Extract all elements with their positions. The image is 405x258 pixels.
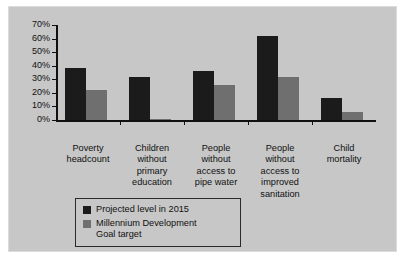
x-axis-line xyxy=(56,120,376,122)
y-tick-mark xyxy=(52,79,57,80)
y-tick-label: 40% xyxy=(32,60,50,71)
y-tick-label: 60% xyxy=(32,33,50,44)
plot-area: 70%60%50%40%30%20%10%0% Poverty headcoun… xyxy=(56,25,376,120)
legend-label-projected: Projected level in 2015 xyxy=(96,204,189,215)
legend-swatch-projected-icon xyxy=(83,206,91,214)
y-tick-label: 10% xyxy=(32,100,50,111)
chart-legend: Projected level in 2015 Millennium Devel… xyxy=(75,198,241,247)
y-tick-mark xyxy=(52,39,57,40)
y-tick-label: 0% xyxy=(37,114,50,125)
bar-group xyxy=(65,25,107,120)
y-tick-label: 50% xyxy=(32,46,50,57)
bar-group xyxy=(129,25,171,120)
bar-projected xyxy=(321,98,342,120)
x-tick-mark xyxy=(120,121,121,125)
y-tick-label: 20% xyxy=(32,87,50,98)
bar-target xyxy=(342,112,363,120)
y-tick-mark xyxy=(52,120,57,121)
legend-swatch-target-icon xyxy=(83,220,91,228)
y-tick-mark xyxy=(52,52,57,53)
legend-item-target: Millennium Development Goal target xyxy=(83,218,234,240)
bar-projected xyxy=(65,68,86,120)
y-tick-mark xyxy=(52,93,57,94)
y-tick-mark xyxy=(52,66,57,67)
y-tick-mark xyxy=(52,25,57,26)
bar-projected xyxy=(193,71,214,120)
legend-item-projected: Projected level in 2015 xyxy=(83,204,234,215)
chart-figure: 70%60%50%40%30%20%10%0% Poverty headcoun… xyxy=(0,0,405,258)
chart-plate: 70%60%50%40%30%20%10%0% Poverty headcoun… xyxy=(8,6,397,252)
bar-target xyxy=(86,90,107,120)
y-tick-label: 70% xyxy=(32,19,50,30)
legend-label-target: Millennium Development Goal target xyxy=(96,218,197,240)
y-tick-mark xyxy=(52,106,57,107)
bar-projected xyxy=(129,77,150,120)
x-tick-mark xyxy=(248,121,249,125)
y-tick-label: 30% xyxy=(32,73,50,84)
bar-target xyxy=(278,77,299,120)
bar-target xyxy=(214,85,235,120)
x-axis-category-label: Child mortality xyxy=(306,143,382,166)
x-tick-mark xyxy=(312,121,313,125)
bar-group xyxy=(193,25,235,120)
x-tick-mark xyxy=(184,121,185,125)
bar-target xyxy=(150,119,171,120)
bar-group xyxy=(257,25,299,120)
bar-projected xyxy=(257,36,278,120)
bar-group xyxy=(321,25,363,120)
